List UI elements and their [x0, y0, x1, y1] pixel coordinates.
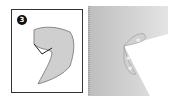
svg-text:✻: ✻ — [126, 55, 130, 61]
step-panel-right: ✻ ✻ ✻ — [88, 0, 176, 100]
step-panel-left: 3 — [11, 9, 83, 93]
svg-text:✻: ✻ — [128, 65, 132, 71]
folding-paper-illustration: ✻ ✻ ✻ — [88, 0, 176, 100]
svg-text:✻: ✻ — [136, 37, 140, 43]
cutout-shape-illustration — [12, 10, 84, 94]
